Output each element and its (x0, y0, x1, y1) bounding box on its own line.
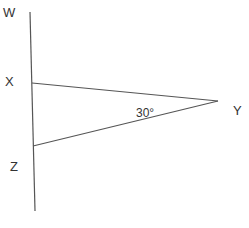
diagram-canvas: W X Y Z 30° (0, 0, 249, 228)
label-Y: Y (233, 103, 242, 118)
segment-ZY (33, 101, 218, 146)
angle-label: 30° (136, 106, 154, 120)
triangle-diagram: W X Y Z 30° (0, 0, 249, 228)
segment-XY (32, 83, 218, 101)
label-X: X (5, 74, 14, 89)
label-W: W (3, 5, 16, 20)
label-Z: Z (10, 159, 18, 174)
line-WZ (30, 12, 35, 211)
